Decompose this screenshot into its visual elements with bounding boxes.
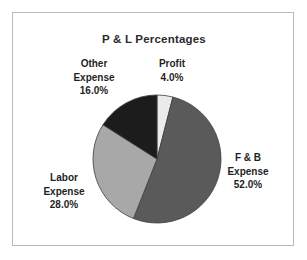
slice-label-labor-expense-line2: Expense xyxy=(26,185,102,199)
slice-label-fb-expense-value: 52.0% xyxy=(209,178,287,192)
slice-label-labor-expense-line1: Labor xyxy=(26,171,102,185)
slice-label-fb-expense-line2: Expense xyxy=(209,165,287,179)
pie-svg xyxy=(92,94,222,224)
chart-frame: P & L Percentages Other Expense 16.0% Pr… xyxy=(12,12,294,246)
slice-label-labor-expense-value: 28.0% xyxy=(26,198,102,212)
slice-label-other-expense-line1: Other xyxy=(57,57,131,71)
pie-slices xyxy=(93,95,221,223)
slice-label-fb-expense-line1: F & B xyxy=(209,151,287,165)
slice-label-other-expense-value: 16.0% xyxy=(57,84,131,98)
slice-label-other-expense: Other Expense 16.0% xyxy=(57,57,131,98)
slice-label-labor-expense: Labor Expense 28.0% xyxy=(26,171,102,212)
slice-label-other-expense-line2: Expense xyxy=(57,71,131,85)
slice-label-profit-line1: Profit xyxy=(141,57,203,71)
slice-label-profit-value: 4.0% xyxy=(141,71,203,85)
slice-label-profit: Profit 4.0% xyxy=(141,57,203,84)
pie-chart-figure: P & L Percentages Other Expense 16.0% Pr… xyxy=(0,0,307,260)
slice-label-fb-expense: F & B Expense 52.0% xyxy=(209,151,287,192)
chart-title: P & L Percentages xyxy=(13,33,295,45)
pie-plot-area xyxy=(92,94,222,224)
